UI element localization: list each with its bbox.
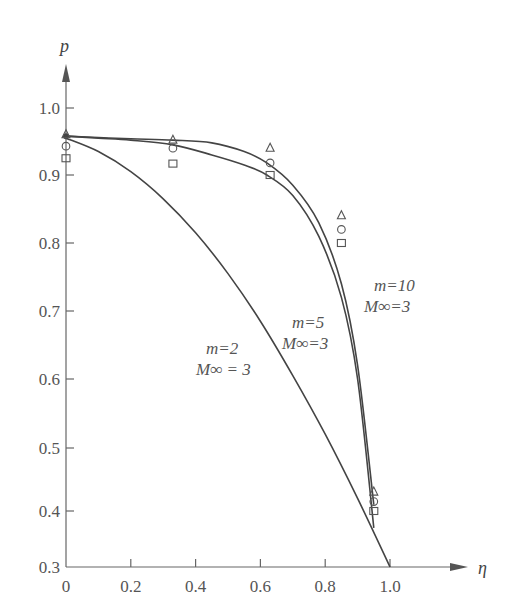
y-ticks: 0.30.40.50.60.70.80.91.0: [39, 99, 74, 577]
y-tick-label: 1.0: [39, 99, 60, 118]
x-tick-label: 1.0: [379, 577, 400, 596]
x-axis-arrow-icon: [450, 563, 468, 571]
triangle-marker-icon: [169, 135, 177, 143]
square-marker-icon: [370, 508, 378, 515]
series-label-mach: M∞=3: [363, 297, 410, 316]
y-axis-arrow-icon: [62, 64, 70, 82]
series-label-m: m=5: [292, 313, 324, 332]
triangle-marker-icon: [266, 143, 274, 151]
x-tick-label: 0.4: [185, 577, 207, 596]
series-label-mach: M∞ = 3: [195, 360, 251, 379]
x-tick-label: 0.8: [315, 577, 336, 596]
curve-series-2: [66, 136, 374, 505]
data-markers: [62, 130, 378, 515]
y-tick-label: 0.6: [39, 370, 60, 389]
x-tick-label: 0.6: [250, 577, 271, 596]
series-labels: m=2M∞ = 3m=5M∞=3m=10M∞=3: [195, 276, 415, 379]
triangle-marker-icon: [337, 211, 345, 219]
triangle-marker-icon: [370, 487, 378, 495]
y-tick-label: 0.8: [39, 234, 60, 253]
series-label-mach: M∞=3: [281, 334, 328, 353]
series-label-m: m=2: [206, 339, 239, 358]
x-tick-label: 0.2: [120, 577, 141, 596]
x-tick-label: 0: [62, 577, 71, 596]
y-tick-label: 0.4: [39, 502, 61, 521]
x-axis-label: η: [478, 558, 487, 578]
series-label-m: m=10: [374, 276, 415, 295]
y-axis-label: p: [58, 36, 69, 56]
circle-marker-icon: [338, 226, 346, 234]
x-ticks: 00.20.40.60.81.0: [62, 559, 401, 596]
y-tick-label: 0.9: [39, 166, 60, 185]
square-marker-icon: [169, 160, 177, 167]
y-tick-label: 0.5: [39, 439, 60, 458]
y-tick-label: 0.3: [39, 558, 60, 577]
curve-series-1: [66, 136, 374, 528]
pressure-distribution-chart: η p 00.20.40.60.81.0 0.30.40.50.60.70.80…: [0, 0, 506, 614]
y-tick-label: 0.7: [39, 302, 61, 321]
square-marker-icon: [337, 240, 345, 247]
